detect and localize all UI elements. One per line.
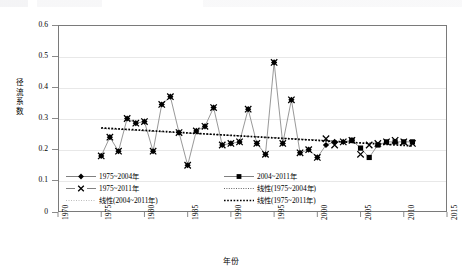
legend-item-2004-2011: 2004~2011年 bbox=[224, 172, 384, 181]
xtick-label-1980: 1980 bbox=[147, 205, 156, 220]
legend-item-trend-1975-2011: 线性(1975~2011年) bbox=[224, 196, 384, 205]
xtick-label-2000: 2000 bbox=[320, 205, 329, 220]
legend-label-2004-2011: 2004~2011年 bbox=[257, 172, 297, 181]
xtick-label-2005: 2005 bbox=[364, 205, 373, 220]
legend-label-trend-1975-2004: 线性(1975~2004年) bbox=[257, 184, 316, 193]
chart-canvas bbox=[0, 0, 462, 273]
legend-key-dotted-bold-icon bbox=[224, 196, 254, 205]
xtick-label-1975: 1975 bbox=[104, 205, 113, 220]
xtick-label-1990: 1990 bbox=[234, 205, 243, 220]
legend-key-diamond-icon bbox=[66, 172, 96, 181]
legend-label-trend-1975-2011: 线性(1975~2011年) bbox=[257, 196, 316, 205]
xtick-label-2015: 2015 bbox=[450, 205, 459, 220]
legend-item-1975-2011: 1975~2011年 bbox=[66, 184, 224, 193]
legend-key-dotted-light-icon bbox=[66, 196, 96, 205]
legend-item-trend-2004-2011: 线性(2004~2011年) bbox=[66, 196, 224, 205]
series-polylines bbox=[101, 62, 412, 165]
legend-key-dotted-fine-icon bbox=[224, 184, 254, 193]
x-tick-marks bbox=[58, 212, 447, 217]
legend-item-1975-2004: 1975~2004年 bbox=[66, 172, 224, 181]
legend-label-1975-2004: 1975~2004年 bbox=[99, 172, 139, 181]
chart-figure: 0.6 0.5 0.4 0.3 0.2 0.1 0 径流系数 197019751… bbox=[0, 0, 462, 273]
legend-key-square-icon bbox=[224, 172, 254, 181]
legend-label-1975-2011: 1975~2011年 bbox=[99, 184, 139, 193]
xtick-label-1985: 1985 bbox=[191, 205, 200, 220]
chart-legend: 1975~2004年 2004~2011年 1975~2011年 线性(1975… bbox=[66, 170, 384, 206]
legend-item-trend-1975-2004: 线性(1975~2004年) bbox=[224, 184, 384, 193]
x-axis-title: 年份 bbox=[0, 255, 462, 266]
xtick-label-2010: 2010 bbox=[407, 205, 416, 220]
legend-label-trend-2004-2011: 线性(2004~2011年) bbox=[99, 196, 158, 205]
xtick-label-1995: 1995 bbox=[277, 205, 286, 220]
xtick-label-1970: 1970 bbox=[61, 205, 70, 220]
data-point-markers bbox=[98, 59, 416, 168]
legend-key-cross-icon bbox=[66, 184, 96, 193]
